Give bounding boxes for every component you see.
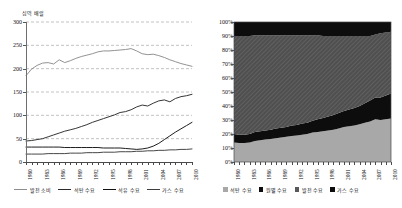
left-x-tick-mark: [164, 162, 165, 165]
legend-line-marker: [147, 189, 160, 190]
left-y-tick-label: 100: [1, 112, 22, 118]
right-x-tick-mark: [328, 162, 329, 165]
right-x-tick-label: 1998: [330, 169, 335, 180]
left-x-tick-mark: [159, 162, 160, 165]
left-series-svg: [26, 22, 192, 162]
right-y-tick-label: 0%: [208, 159, 233, 165]
right-y-tick-label: 10%: [208, 145, 233, 151]
right-x-tick-mark: [318, 162, 319, 165]
left-legend-label: 석탄 수요: [74, 186, 96, 193]
legend-square-marker: [330, 187, 335, 192]
right-x-tick-mark: [255, 162, 256, 165]
left-x-tick-mark: [115, 162, 116, 165]
right-y-tick-mark: [231, 64, 234, 65]
legend-square-marker: [295, 187, 300, 192]
right-x-tick-mark: [365, 162, 366, 165]
legend-line-marker: [103, 189, 116, 190]
right-x-tick-mark: [281, 162, 282, 165]
left-chart-panel: 십억 배럴 050100150200250300 198019831986198…: [0, 0, 201, 208]
right-x-tick-mark: [244, 162, 245, 165]
right-y-tick-mark: [231, 22, 234, 23]
left-x-tick-mark: [181, 162, 182, 165]
left-y-tick-label: 300: [1, 19, 22, 25]
left-y-tick-mark: [23, 45, 26, 46]
left-x-tick-mark: [126, 162, 127, 165]
right-x-tick-mark: [307, 162, 308, 165]
left-legend-item: 석탄 수요: [58, 186, 95, 193]
right-x-tick-mark: [323, 162, 324, 165]
left-x-tick-label: 2007: [177, 169, 182, 180]
left-x-tick-label: 1989: [78, 169, 83, 180]
right-legend-item: 석탄 수요: [223, 186, 252, 193]
right-x-tick-mark: [260, 162, 261, 165]
right-x-tick-mark: [360, 162, 361, 165]
right-x-tick-mark: [286, 162, 287, 165]
left-x-tick-mark: [137, 162, 138, 165]
right-x-tick-label: 1995: [315, 169, 320, 180]
right-x-tick-mark: [271, 162, 272, 165]
left-x-tick-mark: [120, 162, 121, 165]
right-x-tick-mark: [339, 162, 340, 165]
left-x-tick-label: 1983: [45, 169, 50, 180]
left-x-tick-mark: [142, 162, 143, 165]
legend-line-marker: [58, 189, 71, 190]
right-x-tick-mark: [239, 162, 240, 165]
left-x-tick-label: 1992: [94, 169, 99, 180]
right-x-tick-mark: [265, 162, 266, 165]
right-x-tick-label: 1986: [267, 169, 272, 180]
left-x-tick-mark: [186, 162, 187, 165]
right-series-svg: [234, 22, 391, 162]
legend-square-marker: [259, 187, 264, 192]
left-x-tick-mark: [87, 162, 88, 165]
left-y-tick-mark: [23, 115, 26, 116]
left-x-tick-mark: [32, 162, 33, 165]
left-unit-label: 십억 배럴: [22, 9, 44, 16]
left-x-tick-mark: [76, 162, 77, 165]
right-legend: 석탄 수요원별 수요발전 수요가스 수요: [223, 186, 366, 193]
right-x-tick-mark: [386, 162, 387, 165]
left-legend-label: 석유 수요: [118, 186, 140, 193]
left-y-tick-mark: [23, 139, 26, 140]
left-x-tick-mark: [54, 162, 55, 165]
left-x-tick-mark: [170, 162, 171, 165]
left-x-tick-label: 2004: [161, 169, 166, 180]
right-x-tick-mark: [313, 162, 314, 165]
right-y-tick-label: 60%: [208, 75, 233, 81]
right-x-tick-mark: [344, 162, 345, 165]
right-y-tick-mark: [231, 36, 234, 37]
right-x-tick-mark: [276, 162, 277, 165]
right-y-tick-mark: [231, 92, 234, 93]
left-y-tick-label: 250: [1, 42, 22, 48]
right-y-tick-mark: [231, 50, 234, 51]
right-x-tick-mark: [391, 162, 392, 165]
left-y-axis-line: [26, 22, 27, 162]
right-x-tick-label: 1989: [283, 169, 288, 180]
left-x-tick-mark: [175, 162, 176, 165]
left-x-tick-label: 1998: [128, 169, 133, 180]
right-x-tick-mark: [375, 162, 376, 165]
right-x-tick-mark: [292, 162, 293, 165]
right-y-tick-label: 40%: [208, 103, 233, 109]
right-legend-item: 가스 수요: [330, 186, 359, 193]
right-x-tick-mark: [349, 162, 350, 165]
right-chart-panel: 0%10%20%30%40%50%60%70%80%90%100% 198019…: [201, 0, 402, 208]
right-y-tick-mark: [231, 120, 234, 121]
right-x-tick-label: 1983: [252, 169, 257, 180]
left-y-tick-label: 50: [1, 136, 22, 142]
left-x-tick-mark: [48, 162, 49, 165]
left-x-tick-mark: [131, 162, 132, 165]
right-legend-label: 원별 수요: [266, 186, 288, 193]
left-legend-item: 발전 소비: [14, 186, 51, 193]
right-legend-label: 발전 수요: [302, 186, 324, 193]
right-x-tick-label: 2004: [362, 169, 367, 180]
left-x-tick-mark: [109, 162, 110, 165]
right-x-tick-mark: [333, 162, 334, 165]
left-x-tick-mark: [148, 162, 149, 165]
left-x-tick-mark: [81, 162, 82, 165]
right-x-tick-label: 2007: [377, 169, 382, 180]
left-x-tick-mark: [70, 162, 71, 165]
left-y-tick-mark: [23, 69, 26, 70]
left-legend-label: 발전 소비: [30, 186, 52, 193]
right-y-tick-label: 30%: [208, 117, 233, 123]
right-y-tick-mark: [231, 134, 234, 135]
